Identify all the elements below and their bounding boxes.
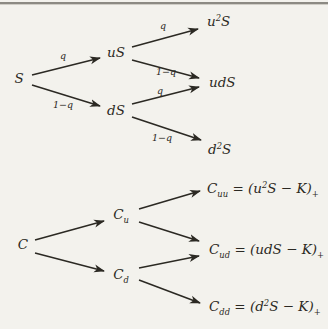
option-node-up-down-payoff: Cud = (udS − K)+ xyxy=(209,243,324,257)
stock-node-up-down: udS xyxy=(209,76,236,90)
prob-label-1mq-down-downdown: 1−q xyxy=(152,133,172,143)
stock-node-up: uS xyxy=(107,46,125,60)
arrow-cu-to-cud xyxy=(139,222,199,241)
prob-label-1mq-up-updown: 1−q xyxy=(156,67,176,77)
top-rule-divider xyxy=(0,2,328,5)
binomial-tree-figure: S uS dS u2S udS d2S q 1−q q 1−q q 1−q C … xyxy=(0,0,328,329)
arrow-cd-to-cdd xyxy=(139,280,200,303)
stock-node-root: S xyxy=(14,72,23,86)
arrow-us-to-uus xyxy=(132,29,198,47)
arrow-cu-to-cuu xyxy=(139,191,200,209)
stock-node-up-up: u2S xyxy=(207,15,230,29)
arrow-c-to-cu xyxy=(35,221,104,240)
prob-label-q-down-updown: q xyxy=(157,86,163,96)
arrow-c-to-cd xyxy=(35,253,104,271)
stock-node-down-down: d2S xyxy=(208,143,231,157)
option-node-up-up-payoff: Cuu = (u2S − K)+ xyxy=(207,182,319,196)
option-node-root: C xyxy=(18,238,28,252)
option-node-up: Cu xyxy=(113,208,129,222)
prob-label-q-root-up: q xyxy=(60,51,66,61)
option-node-down-down-payoff: Cdd = (d2S − K)+ xyxy=(209,300,321,314)
arrow-cd-to-cud xyxy=(139,256,199,268)
prob-label-q-up-upup: q xyxy=(160,21,166,31)
option-node-down: Cd xyxy=(113,268,129,282)
arrow-ds-to-uds xyxy=(132,87,199,104)
tree-arrows-layer xyxy=(0,0,328,329)
stock-node-down: dS xyxy=(107,104,125,118)
prob-label-1mq-root-down: 1−q xyxy=(53,100,73,110)
